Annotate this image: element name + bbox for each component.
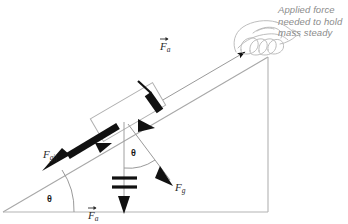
label-gravity-base: F [175,181,182,193]
gravity-parallel-shaft [68,126,118,156]
label-gravity: Fg [175,177,185,195]
label-gravity-parallel-base: F [43,148,50,160]
block-mark-lower-arrow [95,143,112,153]
label-applied-force: Fa [160,36,170,54]
label-gravity-sub: g [182,186,186,195]
label-applied-force-base: F [160,40,167,52]
callout-line-1: Applied force [278,4,342,16]
weight-vertical-arrowhead [118,196,130,214]
gravity-arrowhead [155,166,173,186]
callout-line-2: needed to hold [278,16,342,28]
callout-line-3: mass steady [278,27,342,39]
label-bottom-force-sub: a [95,214,99,223]
label-bottom-force-base: F [88,209,95,221]
label-applied-force-sub: a [167,45,171,54]
block-mark-mid-arrow [138,119,155,132]
angle-label-incline: θ [47,194,52,204]
vector-arrow-icon [160,36,169,41]
label-gravity-parallel-sub: g|| [50,153,57,162]
angle-label-gravity: θ [131,148,136,158]
physics-diagram: Applied force needed to hold mass steady… [0,0,348,224]
label-bottom-force: Fa [88,205,98,223]
label-gravity-parallel: Fg|| [43,144,57,162]
callout-text: Applied force needed to hold mass steady [278,4,342,39]
vector-arrow-icon-bottom [88,205,97,210]
gravity-angle-arc [124,160,155,168]
